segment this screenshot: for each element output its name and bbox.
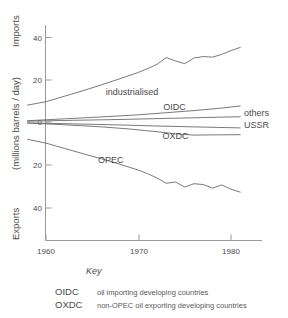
series-label-opec: OPEC	[98, 155, 124, 165]
key-desc-oidc: oil importing developing countries	[97, 288, 209, 297]
y-ticks	[46, 38, 52, 209]
key-block: Key OIDC oil importing developing countr…	[0, 262, 288, 318]
series-line-oidc	[28, 106, 241, 121]
y-tick-label-2: 0	[38, 118, 43, 127]
series-line-oxdc	[28, 123, 241, 135]
key-abbr-oidc: OIDC	[55, 286, 79, 297]
x-tick-labels: 1960 1970 1980	[37, 247, 240, 256]
x-tick-label-1970: 1970	[130, 247, 148, 256]
series-label-layer: industrialisedOIDCothersUSSROXDCOPEC	[98, 87, 269, 164]
y-tick-label-0: 40	[33, 34, 42, 43]
y-axis-title-exports: Exports	[10, 208, 21, 240]
y-axis-title-units: (millions barrels / day)	[10, 77, 21, 170]
y-tick-label-1: 20	[33, 76, 42, 85]
series-label-industrialised: industrialised	[106, 87, 159, 97]
y-tick-label-3: 20	[33, 161, 42, 170]
x-tick-label-1980: 1980	[222, 247, 240, 256]
series-label-oxdc: OXDC	[162, 131, 189, 141]
series-label-ussr: USSR	[244, 120, 270, 130]
y-tick-label-4: 40	[33, 204, 42, 213]
x-tick-label-1960: 1960	[37, 247, 55, 256]
key-desc-oxdc: non-OPEC oil exporting developing countr…	[97, 301, 247, 310]
series-layer	[28, 47, 241, 192]
key-title: Key	[86, 266, 102, 276]
oil-trade-line-chart: Imports (millions barrels / day) Exports…	[0, 0, 288, 318]
y-axis-title-group: Imports (millions barrels / day) Exports	[10, 15, 21, 240]
key-abbr-oxdc: OXDC	[55, 299, 83, 310]
y-axis-title-imports: Imports	[10, 15, 21, 47]
x-ticks	[46, 235, 231, 241]
series-line-opec	[28, 139, 241, 192]
series-line-ussr	[28, 123, 241, 128]
series-label-oidc: OIDC	[163, 102, 186, 112]
series-label-others: others	[244, 108, 270, 118]
